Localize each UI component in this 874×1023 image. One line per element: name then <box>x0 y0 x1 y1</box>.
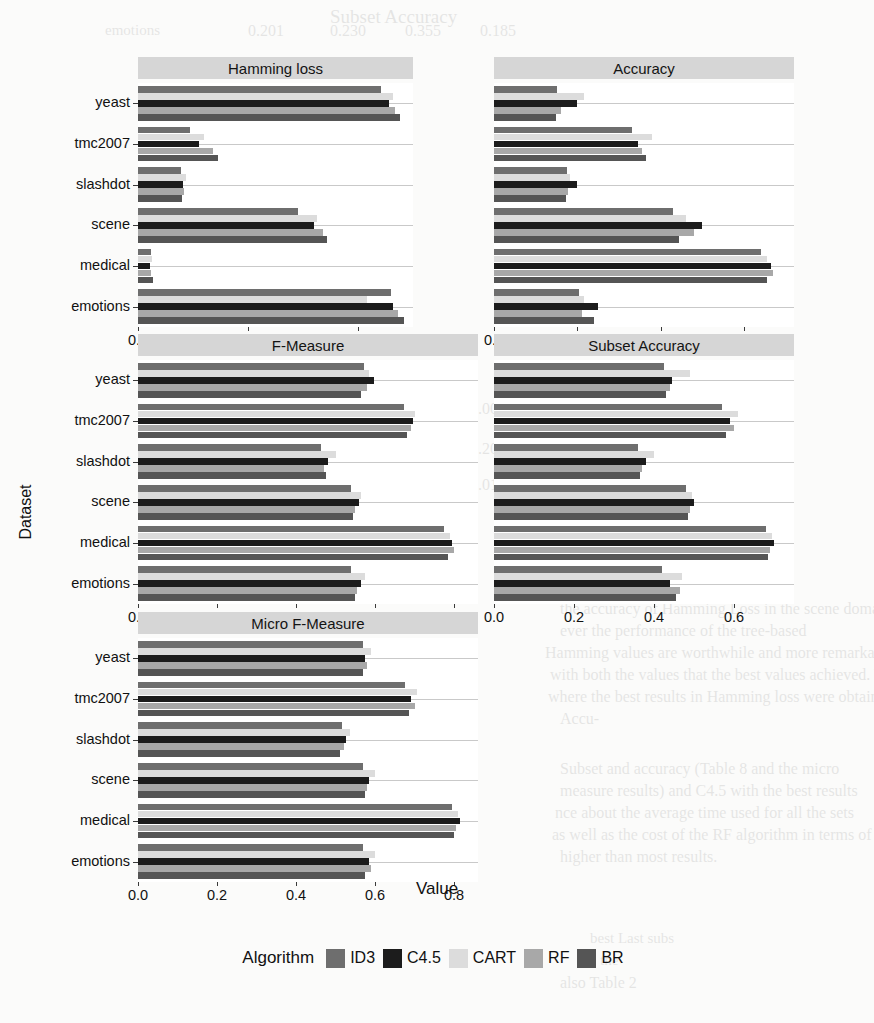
bar-c45-tmc2007 <box>138 696 411 703</box>
bar-cart-emotions <box>138 573 365 580</box>
y-tick-label-slashdot: slashdot <box>36 453 130 469</box>
bar-c45-medical <box>138 540 452 547</box>
x-axis-title: Value <box>0 879 874 899</box>
x-tick <box>248 327 249 331</box>
y-tick-label-emotions: emotions <box>36 575 130 591</box>
bar-rf-slashdot <box>138 743 344 750</box>
bar-br-yeast <box>494 114 556 121</box>
bar-br-emotions <box>138 317 404 324</box>
bar-c45-medical <box>138 818 460 825</box>
bar-id3-emotions <box>138 844 363 851</box>
x-tick <box>138 327 139 331</box>
bar-br-scene <box>138 513 353 520</box>
bar-id3-medical <box>494 526 766 533</box>
y-tick-mark <box>133 821 138 822</box>
x-tick-label: 0.4 <box>644 609 664 625</box>
bar-cart-tmc2007 <box>138 689 417 696</box>
plot-area <box>138 638 478 882</box>
bar-c45-tmc2007 <box>138 418 413 425</box>
facet-strip-label: Hamming loss <box>138 57 413 79</box>
bar-id3-medical <box>138 249 151 256</box>
x-tick <box>454 604 455 608</box>
y-tick-label-tmc2007: tmc2007 <box>36 412 130 428</box>
facet-panel-f-measure: F-Measure0.00.20.40.60.8yeasttmc2007slas… <box>138 334 478 630</box>
bar-cart-slashdot <box>494 174 570 181</box>
bar-br-slashdot <box>494 195 566 202</box>
bar-c45-tmc2007 <box>494 418 730 425</box>
y-tick-label-tmc2007: tmc2007 <box>36 690 130 706</box>
bar-rf-tmc2007 <box>494 148 642 155</box>
bar-rf-medical <box>494 270 773 277</box>
bar-id3-yeast <box>138 86 381 93</box>
x-tick <box>744 327 745 331</box>
x-tick <box>358 327 359 331</box>
bar-rf-scene <box>138 506 355 513</box>
bar-c45-emotions <box>138 303 393 310</box>
bar-rf-slashdot <box>138 188 184 195</box>
bar-br-medical <box>138 554 448 561</box>
y-tick-mark <box>133 543 138 544</box>
bar-br-scene <box>494 513 688 520</box>
bar-id3-emotions <box>494 566 662 573</box>
bar-c45-medical <box>494 263 771 270</box>
facet-panel-subset-accuracy: Subset Accuracy0.00.20.40.6 <box>494 334 794 630</box>
y-tick-mark <box>133 740 138 741</box>
bar-c45-yeast <box>138 100 389 107</box>
bar-id3-yeast <box>138 363 364 370</box>
bar-rf-emotions <box>138 310 398 317</box>
x-tick <box>574 604 575 608</box>
bar-id3-scene <box>138 763 363 770</box>
plot-area <box>138 83 413 327</box>
bar-id3-scene <box>138 208 298 215</box>
bar-id3-tmc2007 <box>494 127 632 134</box>
y-tick-label-slashdot: slashdot <box>36 176 130 192</box>
y-tick-mark <box>133 144 138 145</box>
bar-id3-slashdot <box>138 167 181 174</box>
y-tick-mark <box>133 266 138 267</box>
y-tick-label-slashdot: slashdot <box>36 731 130 747</box>
bar-rf-tmc2007 <box>138 703 415 710</box>
bar-br-tmc2007 <box>494 432 726 439</box>
x-tick <box>577 327 578 331</box>
bar-c45-slashdot <box>138 181 183 188</box>
y-tick-mark <box>133 103 138 104</box>
bar-id3-medical <box>138 804 452 811</box>
bar-br-yeast <box>494 391 666 398</box>
y-axis-title: Dataset <box>17 484 35 539</box>
bar-br-tmc2007 <box>138 155 218 162</box>
y-axis-title-container: Dataset <box>24 0 25 1023</box>
bar-cart-scene <box>138 215 317 222</box>
bar-c45-slashdot <box>494 458 646 465</box>
facet-strip-label: Accuracy <box>494 57 794 79</box>
bar-id3-tmc2007 <box>138 682 405 689</box>
bar-c45-tmc2007 <box>494 141 638 148</box>
y-tick-label-medical: medical <box>36 257 130 273</box>
x-tick-label: 0.6 <box>724 609 744 625</box>
bar-c45-yeast <box>494 100 577 107</box>
bar-rf-yeast <box>494 384 670 391</box>
bar-cart-medical <box>494 533 772 540</box>
bar-rf-emotions <box>138 587 357 594</box>
bar-id3-slashdot <box>494 444 638 451</box>
y-tick-mark <box>133 502 138 503</box>
bar-id3-medical <box>494 249 761 256</box>
bar-c45-scene <box>138 777 369 784</box>
bar-rf-tmc2007 <box>138 148 213 155</box>
bar-rf-slashdot <box>494 188 568 195</box>
bar-id3-emotions <box>138 289 391 296</box>
bar-br-medical <box>138 277 153 284</box>
y-tick-mark <box>133 699 138 700</box>
y-tick-mark <box>133 185 138 186</box>
bar-br-medical <box>138 832 454 839</box>
bar-cart-yeast <box>138 370 369 377</box>
bar-cart-slashdot <box>138 729 350 736</box>
bar-rf-yeast <box>494 107 561 114</box>
bar-rf-slashdot <box>138 465 324 472</box>
y-tick-label-emotions: emotions <box>36 853 130 869</box>
bar-br-emotions <box>138 594 355 601</box>
y-tick-label-medical: medical <box>36 534 130 550</box>
plot-area <box>494 360 794 604</box>
bar-c45-scene <box>138 222 314 229</box>
bar-id3-scene <box>494 485 686 492</box>
bar-br-tmc2007 <box>138 710 409 717</box>
